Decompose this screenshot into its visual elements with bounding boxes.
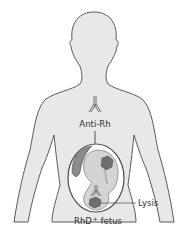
- rh-disease-diagram: Anti-Rh Lysis RhD+ fetus: [0, 0, 186, 237]
- lysis-label: Lysis: [138, 198, 159, 208]
- fetus-label: RhD+ fetus: [74, 215, 123, 226]
- rbc-cell-lysis: [89, 197, 101, 208]
- anti-rh-label: Anti-Rh: [79, 119, 110, 129]
